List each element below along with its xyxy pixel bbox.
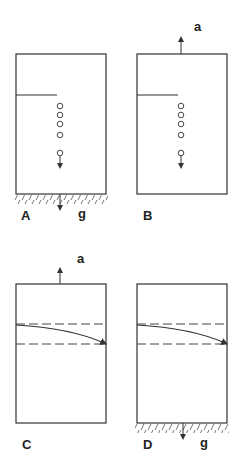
box-c	[16, 284, 106, 423]
panel-b	[137, 39, 227, 194]
drops-a	[57, 103, 63, 156]
diagram-canvas	[0, 0, 243, 474]
panel-label-a: A	[21, 209, 30, 222]
box-b	[137, 54, 227, 194]
accel-label-b: a	[194, 20, 201, 33]
panel-label-d: D	[143, 438, 152, 451]
ground-hatch-a	[14, 195, 108, 204]
panel-d	[135, 284, 229, 437]
panel-label-c: C	[22, 438, 31, 451]
light-path-d	[137, 325, 225, 343]
gravity-label-d: g	[200, 436, 208, 449]
ground-hatch-d	[135, 424, 229, 433]
box-a	[16, 54, 106, 194]
panel-label-b: B	[143, 209, 152, 222]
light-path-c	[16, 325, 104, 343]
box-d	[137, 284, 227, 423]
gravity-label-a: g	[78, 207, 86, 220]
panel-c	[16, 270, 106, 423]
drops-b	[178, 103, 184, 156]
panel-a	[14, 54, 108, 208]
accel-label-c: a	[77, 252, 84, 265]
